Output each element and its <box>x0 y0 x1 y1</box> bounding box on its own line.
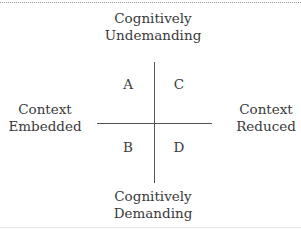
top-dotted-border <box>0 2 301 3</box>
bottom-axis-label-line2: Demanding <box>114 205 193 222</box>
quadrant-d-label: D <box>174 140 185 155</box>
right-axis-label: Context Reduced <box>236 101 296 135</box>
quadrant-a-label: A <box>123 77 133 92</box>
left-axis-label-line2: Embedded <box>8 118 81 135</box>
bottom-axis-label: Cognitively Demanding <box>114 188 193 222</box>
right-axis-label-line1: Context <box>236 101 296 118</box>
bottom-border <box>0 227 301 228</box>
top-axis-label-line2: Undemanding <box>105 27 202 44</box>
quadrant-c-label: C <box>174 77 184 92</box>
left-axis-label-line1: Context <box>8 101 81 118</box>
top-axis-label: Cognitively Undemanding <box>105 10 202 44</box>
top-axis-label-line1: Cognitively <box>105 10 202 27</box>
left-axis-label: Context Embedded <box>8 101 81 135</box>
quadrant-b-label: B <box>123 140 133 155</box>
horizontal-axis-line <box>97 123 212 124</box>
bottom-axis-label-line1: Cognitively <box>114 188 193 205</box>
right-axis-label-line2: Reduced <box>236 118 296 135</box>
